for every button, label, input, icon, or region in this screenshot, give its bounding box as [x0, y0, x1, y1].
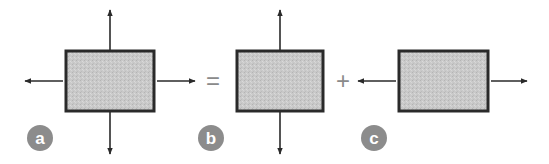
label-b: b	[206, 129, 216, 148]
plus-sign: +	[336, 67, 350, 94]
equals-sign: =	[206, 67, 220, 94]
block	[399, 51, 488, 111]
label-a: a	[35, 129, 45, 148]
block	[237, 51, 323, 111]
block	[66, 51, 154, 111]
label-c: c	[369, 129, 378, 148]
panel-c: c	[358, 51, 527, 151]
panel-a: a	[25, 10, 195, 154]
decomposition-diagram: a = b + c	[0, 0, 549, 164]
